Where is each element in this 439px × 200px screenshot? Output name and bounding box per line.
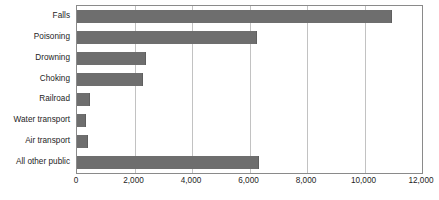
y-axis-tick-label: Water transport (0, 109, 73, 130)
x-axis-tick-label: 6,000 (238, 176, 259, 186)
bar-row (77, 69, 422, 90)
y-axis-tick-label: All other public (0, 151, 73, 172)
y-axis-tick-label: Falls (0, 5, 73, 26)
y-axis-tick-label: Drowning (0, 47, 73, 68)
bar[interactable] (77, 93, 90, 106)
bar[interactable] (77, 73, 143, 86)
bar-row (77, 110, 422, 131)
x-axis-tick-label: 4,000 (181, 176, 202, 186)
bar-row (77, 152, 422, 173)
y-axis-tick-label: Railroad (0, 89, 73, 110)
bar-row (77, 48, 422, 69)
x-axis-tick-label: 0 (74, 176, 79, 186)
x-axis-tick-label: 10,000 (351, 176, 376, 186)
bar[interactable] (77, 31, 257, 44)
y-axis-tick-label: Poisoning (0, 26, 73, 47)
x-axis-tick-label: 8,000 (296, 176, 317, 186)
plot-area (76, 5, 423, 174)
bar-row (77, 27, 422, 48)
bar-row (77, 90, 422, 111)
x-axis-value-labels: 02,0004,0006,0008,00010,00012,000 (76, 176, 421, 190)
bar[interactable] (77, 10, 392, 23)
y-axis-tick-label: Choking (0, 68, 73, 89)
y-axis-tick-label: Air transport (0, 130, 73, 151)
x-axis-tick-label: 2,000 (123, 176, 144, 186)
bar[interactable] (77, 52, 146, 65)
bar[interactable] (77, 156, 259, 169)
y-axis-category-labels: Falls Poisoning Drowning Choking Railroa… (0, 5, 73, 172)
bar-chart-figure: Falls Poisoning Drowning Choking Railroa… (0, 0, 439, 200)
x-axis-tick-label: 12,000 (408, 176, 433, 186)
bar-row (77, 131, 422, 152)
bar[interactable] (77, 135, 88, 148)
bar[interactable] (77, 114, 86, 127)
bars-layer (77, 6, 422, 173)
bar-row (77, 6, 422, 27)
